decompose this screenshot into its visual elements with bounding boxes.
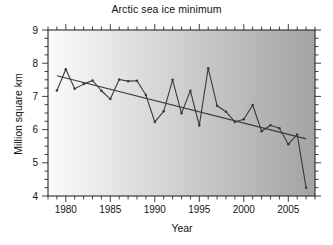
data-point — [260, 130, 263, 133]
data-point — [56, 89, 59, 92]
data-point — [216, 104, 219, 107]
data-point — [145, 94, 148, 97]
data-point — [234, 121, 237, 124]
data-point — [73, 88, 76, 91]
data-point — [118, 78, 121, 81]
data-point — [243, 118, 246, 121]
data-point — [225, 110, 228, 113]
x-tick-labels: 198019851990199520002005 — [55, 204, 300, 215]
data-point — [189, 90, 192, 93]
x-tick-label: 1980 — [55, 204, 78, 215]
y-tick-label: 8 — [32, 58, 38, 69]
y-tick-label: 6 — [32, 124, 38, 135]
data-point — [82, 83, 85, 86]
y-tick-label: 7 — [32, 91, 38, 102]
data-point — [287, 143, 290, 146]
data-point — [305, 186, 308, 189]
y-tick-label: 5 — [32, 157, 38, 168]
data-point — [154, 121, 157, 124]
data-point — [162, 110, 165, 113]
data-point — [296, 133, 299, 136]
data-point — [269, 124, 272, 127]
data-point — [109, 98, 112, 101]
data-point — [198, 124, 201, 127]
y-tick-labels: 456789 — [32, 25, 38, 202]
chart-figure: Arctic sea ice minimum Million square km… — [0, 0, 333, 245]
plot-canvas: 198019851990199520002005 456789 — [0, 0, 333, 245]
x-tick-label: 1990 — [144, 204, 167, 215]
y-tick-label: 4 — [32, 191, 38, 202]
data-point — [100, 90, 103, 93]
data-point — [207, 67, 210, 70]
data-point — [171, 79, 174, 82]
x-tick-label: 2000 — [233, 204, 256, 215]
data-point — [136, 80, 139, 83]
y-tick-label: 9 — [32, 25, 38, 36]
data-point — [91, 79, 94, 82]
x-tick-label: 2005 — [277, 204, 300, 215]
data-point — [127, 80, 130, 83]
data-point — [65, 68, 68, 71]
x-tick-label: 1985 — [99, 204, 122, 215]
x-tick-label: 1995 — [188, 204, 211, 215]
data-point — [278, 127, 281, 130]
data-point — [180, 112, 183, 115]
data-point — [251, 104, 254, 107]
